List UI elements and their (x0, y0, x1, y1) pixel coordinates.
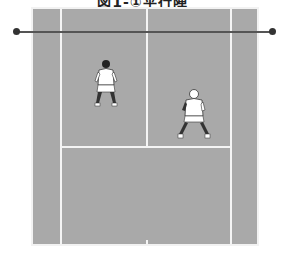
center-service-line (146, 9, 148, 148)
left-singles-sideline (60, 9, 62, 244)
net (16, 31, 273, 33)
player-1-figure (93, 59, 119, 107)
net-post-right (269, 28, 276, 35)
net-post-left (13, 28, 20, 35)
center-mark (146, 240, 148, 244)
tennis-court (31, 7, 259, 246)
player-2-figure (177, 88, 211, 139)
right-singles-sideline (230, 9, 232, 244)
